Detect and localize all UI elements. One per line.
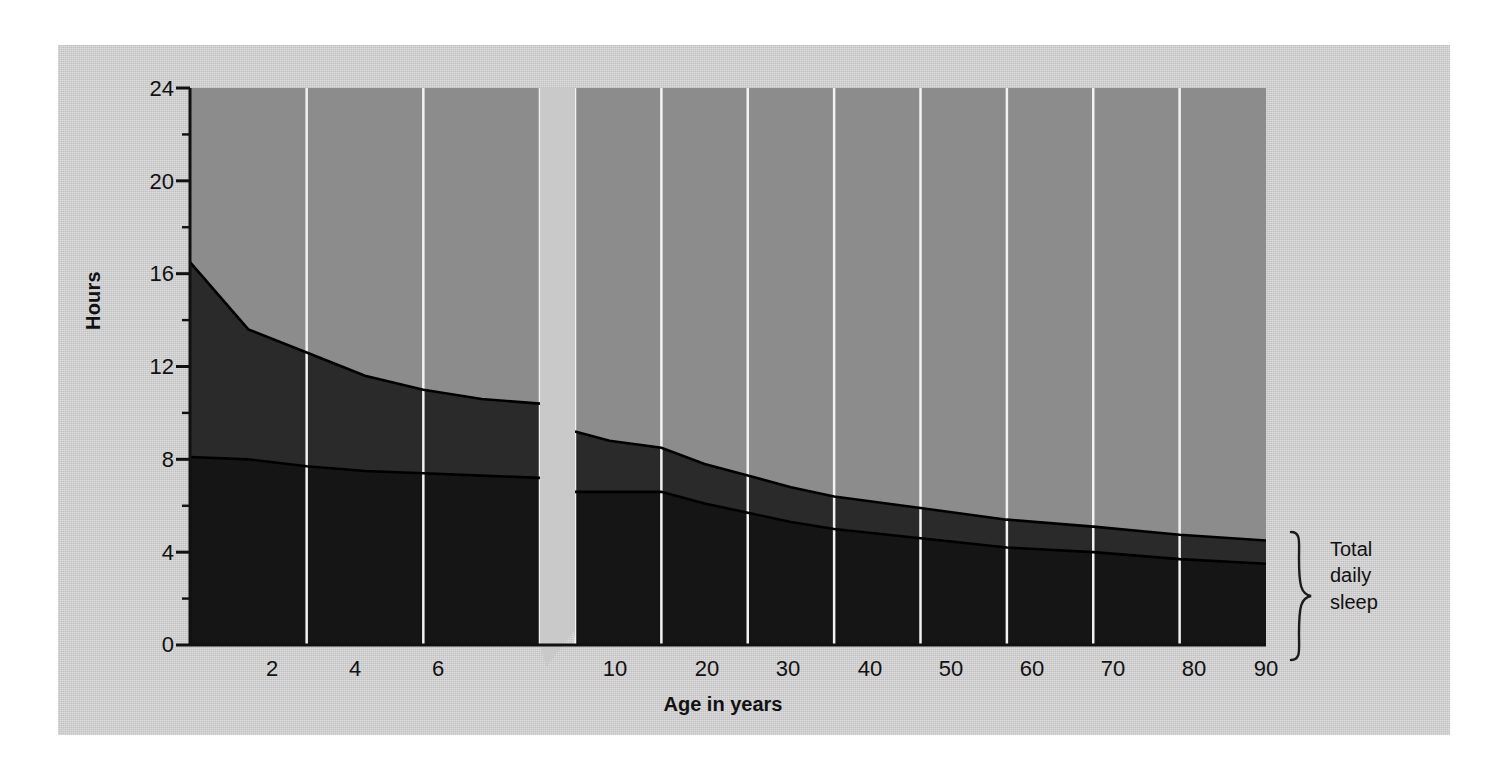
sleep-area-chart <box>0 0 1300 760</box>
total-note-line-3: sleep <box>1330 589 1378 615</box>
total-note-line-1: Total <box>1330 536 1378 562</box>
figure-root: Hours 24 20 16 12 8 4 0 2 4 6 10 20 30 4… <box>0 0 1505 781</box>
right-brace-icon <box>1285 528 1325 668</box>
total-daily-sleep-note: Total daily sleep <box>1330 536 1378 615</box>
total-note-line-2: daily <box>1330 562 1378 588</box>
